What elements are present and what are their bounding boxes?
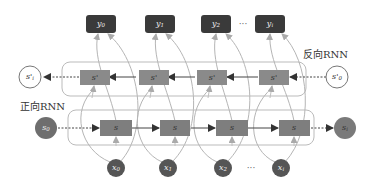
input-node-x1: x1 [159,159,177,177]
forward-rnn-label: 正向RNN [20,100,65,112]
svg-text:s': s' [92,73,98,82]
svg-text:s: s [292,123,296,132]
backward-rnn-label: 反向RNN [303,48,348,60]
svg-text:s': s' [271,73,277,82]
output-nodes: y0 y1 y2 ··· yi [86,15,285,33]
output-node-y1: y1 [145,15,175,33]
output-node-y0: y0 [86,15,116,33]
backward-end-node-s-prime-i: s'i [19,66,41,88]
svg-text:s: s [173,123,177,132]
svg-text:s: s [114,123,118,132]
input-node-xi: xi [272,159,290,177]
input-to-output-curves [81,34,306,162]
bidirectional-rnn-diagram: y0 y1 y2 ··· yi 反向RNN s' s' s' s' [0,0,372,192]
svg-text:s': s' [209,73,215,82]
input-nodes: x0 x1 x2 ··· xi [107,159,290,177]
input-node-x2: x2 [214,159,232,177]
inputs-ellipsis: ··· [247,163,256,173]
input-node-x0: x0 [107,159,125,177]
output-node-y2: y2 [201,15,231,33]
output-node-yi: yi [255,15,285,33]
backward-start-node-s-prime-0: s'0 [326,66,348,88]
forward-end-node-si: si [334,117,356,139]
outputs-ellipsis: ··· [239,19,248,29]
svg-text:s: s [230,123,234,132]
svg-text:s': s' [151,73,157,82]
forward-start-node-s0: s0 [35,117,57,139]
